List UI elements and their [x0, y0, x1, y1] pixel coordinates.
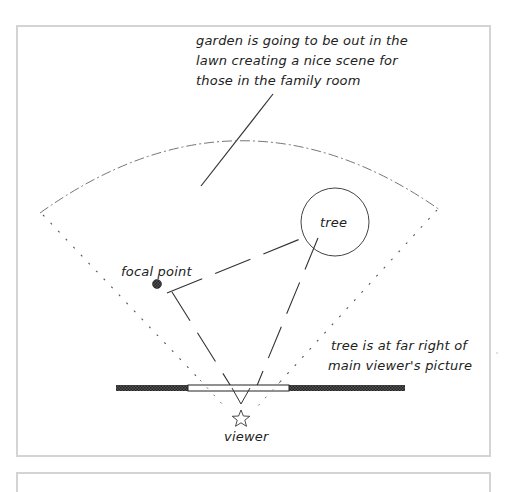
tree-note-line-1: tree is at far right of [331, 338, 469, 353]
window-dotted-left [200, 380, 224, 406]
garden-note-line-3: those in the family room [196, 73, 361, 88]
sightline-viewer-to-tree [256, 238, 318, 388]
viewer-star-icon [232, 410, 249, 426]
tree-label: tree [320, 215, 347, 230]
garden-leader-line [201, 94, 273, 186]
window-opening [188, 385, 289, 391]
wall-right [289, 385, 405, 391]
focal-point-marker [153, 280, 162, 289]
view-cone-left-edge [43, 215, 200, 380]
stray-mark [496, 352, 498, 354]
wall-left [116, 385, 188, 391]
viewer-label: viewer [224, 429, 270, 444]
tree-note-line-2: main viewer's picture [328, 358, 472, 373]
garden-note-line-1: garden is going to be out in the [196, 33, 408, 48]
garden-note: garden is going to be out in the lawn cr… [196, 33, 408, 88]
view-cone-arc [40, 141, 440, 213]
sightline-viewer-to-focal [172, 292, 232, 388]
garden-note-line-2: lawn creating a nice scene for [196, 53, 399, 68]
tree-note: tree is at far right of main viewer's pi… [328, 338, 472, 373]
focal-point-label: focal point [121, 264, 192, 279]
